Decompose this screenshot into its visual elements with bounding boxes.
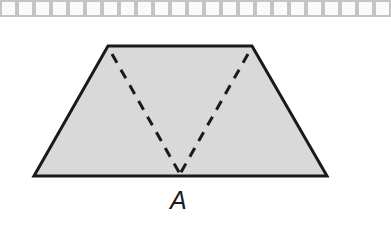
grid-cell (374, 0, 391, 17)
trapezoid-shape (34, 46, 327, 176)
grid-cell (357, 0, 374, 17)
point-a-label: A (170, 188, 187, 213)
